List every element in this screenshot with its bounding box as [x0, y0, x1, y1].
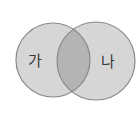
- venn-diagram: 가 나: [0, 0, 140, 113]
- set-right-label: 나: [101, 53, 115, 71]
- set-left-label: 가: [28, 52, 42, 70]
